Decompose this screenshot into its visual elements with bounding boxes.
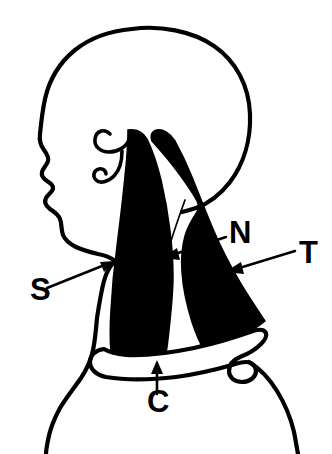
anatomy-illustration: S N T C	[0, 0, 332, 454]
label-s: S	[30, 272, 51, 307]
anatomy-figure: S N T C	[0, 0, 332, 454]
label-t: T	[299, 235, 318, 270]
label-c: C	[147, 384, 169, 419]
label-n: N	[229, 215, 251, 250]
